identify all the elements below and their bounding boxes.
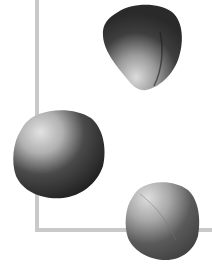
rose-petal-left (11, 108, 107, 200)
rose-petal-bottom (124, 180, 202, 262)
rose-petal-top (100, 2, 186, 94)
